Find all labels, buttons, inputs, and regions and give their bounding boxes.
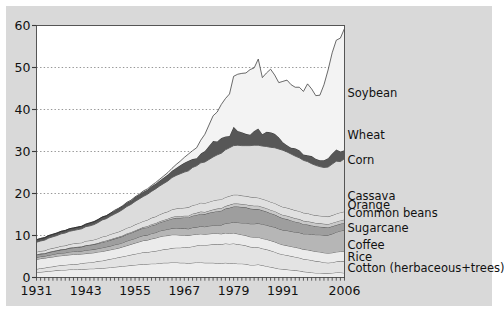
y-axis-tick-label: 60 <box>2 18 31 33</box>
x-axis-tick-label: 1967 <box>167 283 201 298</box>
x-axis-tick-label: 1979 <box>217 283 251 298</box>
series-label-corn: Corn <box>348 153 375 167</box>
series-label-soybean: Soybean <box>348 86 398 100</box>
y-axis-tick-label: 50 <box>2 60 31 75</box>
x-axis-tick-label: 2006 <box>328 283 362 298</box>
x-axis-tick-label: 1931 <box>20 283 54 298</box>
series-label-sugarcane: Sugarcane <box>348 221 409 235</box>
series-label-wheat: Wheat <box>348 128 385 142</box>
y-axis-tick-label: 20 <box>2 186 31 201</box>
x-axis-tick-label: 1991 <box>266 283 300 298</box>
y-axis-tick-label: 30 <box>2 144 31 159</box>
series-label-common-beans: Common beans <box>348 206 438 220</box>
x-axis-tick-label: 1943 <box>69 283 103 298</box>
y-axis-tick-label: 10 <box>2 228 31 243</box>
series-label-cotton-herbaceous-trees: Cotton (herbaceous+trees) <box>348 261 504 275</box>
y-axis-tick-label: 40 <box>2 102 31 117</box>
x-axis-tick-label: 1955 <box>118 283 152 298</box>
